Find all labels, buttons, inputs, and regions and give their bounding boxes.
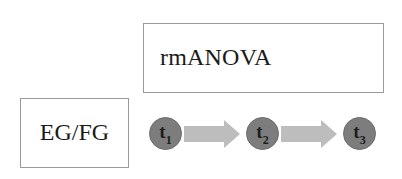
rmanova-label: rmANOVA bbox=[160, 44, 272, 71]
timepoint-t1: t1 bbox=[149, 117, 182, 150]
timepoint-subscript: 2 bbox=[263, 134, 269, 146]
group-label: EG/FG bbox=[21, 119, 128, 146]
timepoint-t3: t3 bbox=[343, 117, 376, 150]
rmanova-box: rmANOVA bbox=[143, 23, 384, 93]
group-box: EG/FG bbox=[20, 98, 129, 168]
arrow-right-icon bbox=[184, 120, 240, 148]
timepoint-subscript: 1 bbox=[166, 134, 172, 146]
arrow-right-icon bbox=[281, 120, 337, 148]
timepoint-t2: t2 bbox=[246, 117, 279, 150]
timepoint-subscript: 3 bbox=[360, 134, 366, 146]
